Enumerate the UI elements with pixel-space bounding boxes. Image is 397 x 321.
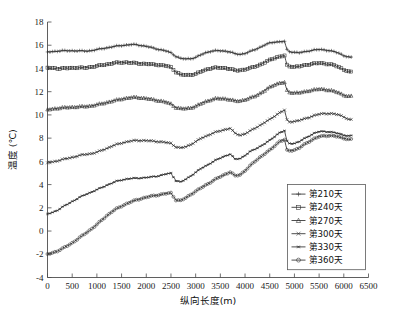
x-tick-label: 5500	[310, 281, 329, 291]
legend-label: 第330天	[309, 241, 343, 252]
y-axis-title: 温度 (℃)	[7, 129, 18, 170]
x-tick-label: 2000	[137, 281, 156, 291]
y-tick-label: 6	[39, 157, 44, 167]
legend-label: 第270天	[309, 215, 343, 226]
temperature-profile-chart: -4-2024681012141618050010001500200025003…	[0, 0, 397, 321]
y-tick-label: 12	[35, 87, 44, 97]
legend-label: 第360天	[309, 254, 343, 265]
y-tick-label: 10	[35, 110, 45, 120]
x-tick-label: 500	[65, 281, 79, 291]
x-tick-label: 4000	[236, 281, 255, 291]
chart-legend: 第210天第240天第270天第300天第330天第360天	[288, 185, 366, 270]
x-tick-label: 6000	[335, 281, 354, 291]
y-tick-label: 2	[39, 203, 44, 213]
y-tick-label: 4	[39, 180, 44, 190]
x-tick-label: 1000	[88, 281, 107, 291]
y-tick-label: 0	[39, 226, 44, 236]
x-tick-label: 2500	[162, 281, 181, 291]
y-tick-label: -4	[36, 273, 44, 283]
x-axis-title: 纵向长度(m)	[180, 295, 237, 306]
y-tick-label: 8	[39, 133, 44, 143]
y-tick-label: 14	[35, 64, 45, 74]
y-tick-label: 18	[35, 17, 45, 27]
legend-label: 第240天	[309, 201, 343, 212]
y-tick-label: -2	[36, 249, 44, 259]
x-tick-label: 4500	[261, 281, 280, 291]
y-tick-label: 16	[35, 40, 45, 50]
x-tick-label: 6500	[360, 281, 379, 291]
x-tick-label: 5000	[285, 281, 304, 291]
chart-figure: -4-2024681012141618050010001500200025003…	[0, 0, 397, 321]
legend-label: 第210天	[309, 188, 343, 199]
x-tick-label: 1500	[113, 281, 132, 291]
x-tick-label: 3500	[211, 281, 230, 291]
x-tick-label: 3000	[187, 281, 206, 291]
legend-label: 第300天	[309, 228, 343, 239]
x-tick-label: 0	[45, 281, 50, 291]
